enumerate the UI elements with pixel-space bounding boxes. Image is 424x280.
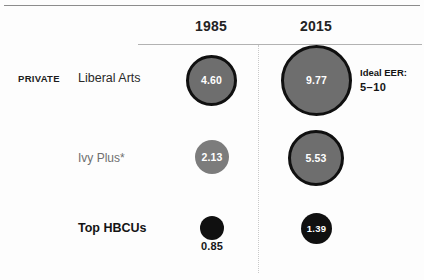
- bubble-value: 1.39: [307, 224, 326, 234]
- header-rule: [138, 44, 422, 45]
- bubble-value: 4.60: [201, 75, 222, 86]
- bubble-liberal-arts-2015: 9.77: [281, 45, 352, 116]
- ideal-eer-label: Ideal EER:: [360, 66, 424, 80]
- bubble-value: 2.13: [201, 152, 222, 163]
- row-label-top-hbcus: Top HBCUs: [78, 221, 147, 235]
- bubble-value: 9.77: [306, 75, 327, 86]
- bubble-value: 5.53: [305, 153, 326, 164]
- column-header-1985: 1985: [171, 18, 251, 34]
- bubble-ivy-plus-2015: 5.53: [288, 130, 344, 186]
- bubble-top-hbcus-2015: 1.39: [301, 213, 332, 244]
- row-label-liberal-arts: Liberal Arts: [78, 71, 141, 85]
- ideal-eer-annotation: Ideal EER: 5–10: [360, 66, 424, 96]
- ideal-eer-range: 5–10: [360, 80, 424, 96]
- column-header-2015: 2015: [276, 18, 356, 34]
- row-label-ivy-plus: Ivy Plus*: [78, 151, 125, 165]
- bubble-top-hbcus-1985: [200, 216, 224, 240]
- eer-bubble-chart: 1985 2015 PRIVATE Liberal Arts 4.60 9.77…: [0, 0, 424, 280]
- top-rule: [4, 5, 420, 6]
- bubble-liberal-arts-1985: 4.60: [186, 55, 237, 106]
- row-group-private: PRIVATE: [18, 73, 60, 84]
- bubble-ivy-plus-1985: 2.13: [195, 140, 229, 174]
- bubble-value-top-hbcus-1985: 0.85: [182, 240, 242, 252]
- column-divider: [258, 45, 259, 273]
